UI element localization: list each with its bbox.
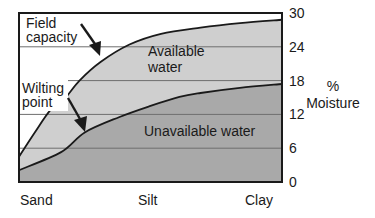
y-tick-label: 6 <box>289 140 297 156</box>
wilting-point-label-line2: point <box>22 94 52 110</box>
soil-moisture-chart: Field capacity Wilting point Available w… <box>0 0 375 218</box>
y-axis-title-percent: % <box>327 78 339 94</box>
available-water-label-line1: Available <box>148 43 205 59</box>
unavailable-water-label: Unavailable water <box>144 123 256 139</box>
y-tick-label: 18 <box>289 73 305 89</box>
wilting-point-label: Wilting point <box>20 80 68 111</box>
y-tick-label: 30 <box>289 5 305 21</box>
x-category-sand: Sand <box>20 192 53 208</box>
y-tick-label: 0 <box>289 174 297 190</box>
y-tick-label: 24 <box>289 39 305 55</box>
y-tick-label: 12 <box>289 106 305 122</box>
x-category-clay: Clay <box>245 192 273 208</box>
y-axis-title-moisture: Moisture <box>306 95 360 111</box>
x-category-silt: Silt <box>138 192 158 208</box>
field-capacity-label-line2: capacity <box>26 29 77 45</box>
available-water-label-line2: water <box>147 59 183 75</box>
